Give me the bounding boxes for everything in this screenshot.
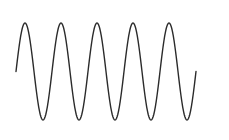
sine-wave-plot xyxy=(0,0,229,140)
sine-wave-line xyxy=(16,23,196,120)
